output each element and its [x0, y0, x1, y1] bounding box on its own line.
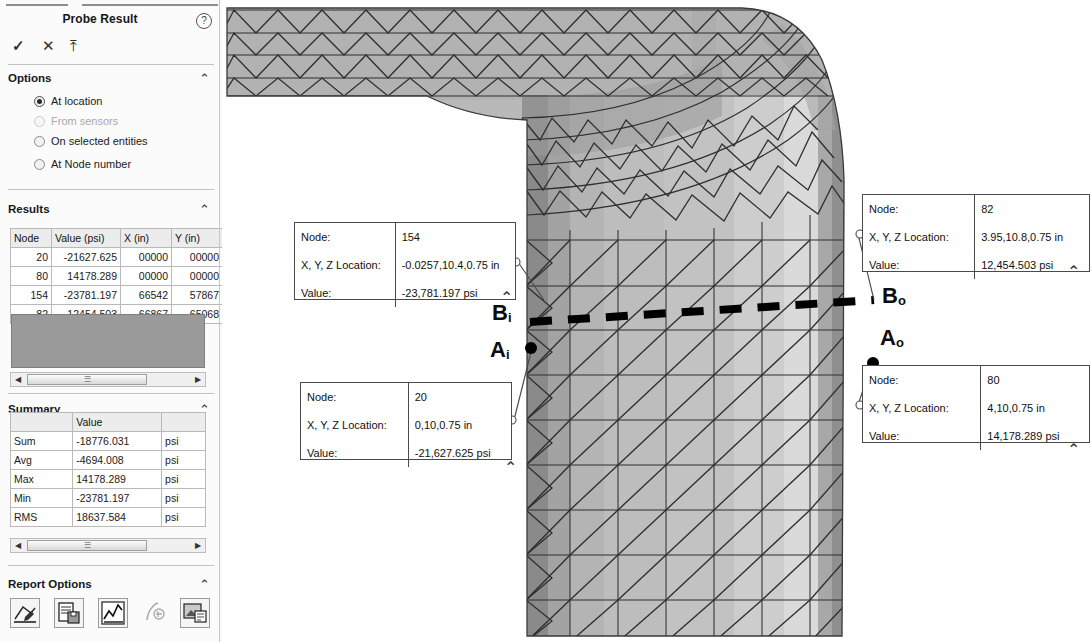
table-row[interactable]: 80 14178.289 00000 00000 — [11, 267, 223, 286]
report-image-icon[interactable] — [180, 598, 210, 628]
point-label-sub: i — [508, 310, 512, 325]
column-header-value[interactable]: Value (psi) — [52, 229, 121, 248]
results-table[interactable]: Node Value (psi) X (in) Y (in) 20 -21627… — [10, 228, 223, 324]
callout-label-value: Value: — [863, 422, 981, 450]
callout-row-location: X, Y, Z Location: 0,10,0.75 in — [301, 411, 511, 439]
column-header-value: Value — [73, 413, 162, 432]
scrollbar-thumb[interactable]: ☰ — [27, 374, 147, 385]
cell-node: 20 — [11, 248, 52, 267]
table-row[interactable]: 154 -23781.197 66542 57867 — [11, 286, 223, 305]
callout-label-location: X, Y, Z Location: — [301, 411, 408, 439]
callout-row-location: X, Y, Z Location: 3.95,10.8,0.75 in — [863, 223, 1089, 251]
callout-collapse-caret-20[interactable]: ⌃ — [504, 458, 517, 477]
radio-label: On selected entities — [51, 135, 148, 147]
cell-x: 00000 — [121, 267, 172, 286]
cancel-button[interactable]: ✕ — [42, 37, 55, 55]
table-header-row: Node Value (psi) X (in) Y (in) — [11, 229, 223, 248]
callout-label-node: Node: — [295, 223, 395, 251]
point-label-ao: Ao — [880, 325, 904, 351]
radio-at-location[interactable]: At location — [34, 92, 102, 110]
report-options-toolbar — [10, 598, 216, 632]
callout-row-node: Node: 80 — [863, 366, 1089, 394]
callout-collapse-caret-80[interactable]: ⌃ — [1067, 440, 1080, 459]
point-label-bo: Bo — [882, 283, 906, 309]
callout-label-location: X, Y, Z Location: — [295, 251, 395, 279]
table-row[interactable]: 20 -21627.625 00000 00000 — [11, 248, 223, 267]
column-header-node[interactable]: Node — [11, 229, 52, 248]
cell-node: 80 — [11, 267, 52, 286]
column-header-units — [162, 413, 206, 432]
scrollbar-thumb[interactable]: ☰ — [27, 540, 147, 551]
save-to-file-icon[interactable] — [54, 598, 84, 628]
panel-action-bar: ✓ ✕ ⤒ — [10, 37, 210, 57]
cell-value: 18637.584 — [73, 508, 162, 527]
point-label-base: B — [882, 283, 898, 308]
column-header-y[interactable]: Y (in) — [172, 229, 223, 248]
scroll-left-icon[interactable]: ◀ — [11, 373, 25, 386]
point-label-base: A — [490, 337, 506, 362]
scroll-left-icon[interactable]: ◀ — [11, 539, 25, 552]
panel-border — [219, 0, 220, 642]
radio-bullet-icon — [34, 159, 45, 170]
point-label-base: A — [880, 325, 896, 350]
callout-value-node: 154 — [395, 223, 515, 251]
summary-table[interactable]: Value Sum -18776.031 psi Avg -4694.008 p… — [10, 412, 206, 527]
cell-node: 154 — [11, 286, 52, 305]
update-icon[interactable] — [142, 598, 172, 628]
radio-at-node-number[interactable]: At Node number — [34, 155, 131, 173]
callout-value-node: 20 — [408, 383, 511, 411]
scroll-right-icon[interactable]: ▶ — [191, 539, 205, 552]
summary-horizontal-scrollbar[interactable]: ◀ ☰ ▶ — [10, 538, 206, 553]
chevron-up-icon-options[interactable]: ⌃ — [199, 71, 210, 86]
cell-metric: Min — [11, 489, 73, 508]
cell-value: -4694.008 — [73, 451, 162, 470]
plot-graph-icon[interactable] — [98, 598, 128, 628]
callout-label-value: Value: — [301, 439, 408, 467]
callout-node-80[interactable]: Node: 80 X, Y, Z Location: 4,10,0.75 in … — [862, 365, 1090, 443]
callout-node-20[interactable]: Node: 20 X, Y, Z Location: 0,10,0.75 in … — [300, 382, 512, 460]
cell-value: 14178.289 — [52, 267, 121, 286]
callout-collapse-caret-82[interactable]: ⌃ — [1067, 262, 1080, 281]
callout-collapse-caret-154[interactable]: ⌃ — [500, 288, 513, 307]
chevron-up-icon-results[interactable]: ⌃ — [199, 202, 210, 217]
model-viewport[interactable]: Node: 154 X, Y, Z Location: -0.0257,10.4… — [222, 0, 1092, 642]
callout-row-value: Value: 12,454.503 psi — [863, 251, 1089, 279]
section-header-results: Results ⌃ — [8, 203, 214, 219]
column-header-x[interactable]: X (in) — [121, 229, 172, 248]
table-row: RMS 18637.584 psi — [11, 508, 206, 527]
callout-label-node: Node: — [863, 366, 981, 394]
callout-row-value: Value: -23,781.197 psi — [295, 279, 515, 307]
cell-units: psi — [162, 508, 206, 527]
radio-bullet-icon — [34, 136, 45, 147]
callout-node-154[interactable]: Node: 154 X, Y, Z Location: -0.0257,10.4… — [294, 222, 516, 300]
save-as-sensor-icon[interactable] — [10, 598, 40, 628]
divider — [8, 565, 214, 566]
radio-on-selected-entities[interactable]: On selected entities — [34, 132, 148, 150]
pin-button[interactable]: ⤒ — [70, 37, 77, 55]
callout-row-value: Value: 14,178.289 psi — [863, 422, 1089, 450]
results-horizontal-scrollbar[interactable]: ◀ ☰ ▶ — [10, 372, 206, 387]
callout-node-82[interactable]: Node: 82 X, Y, Z Location: 3.95,10.8,0.7… — [862, 194, 1090, 272]
callout-row-node: Node: 154 — [295, 223, 515, 251]
divider — [8, 189, 214, 190]
cell-value: 14178.289 — [73, 470, 162, 489]
probe-result-panel: Probe Result ? ✓ ✕ ⤒ Options ⌃ At locati… — [0, 0, 222, 642]
accept-button[interactable]: ✓ — [12, 37, 25, 55]
section-title-report-options: Report Options — [8, 578, 92, 590]
cell-value: -23781.197 — [73, 489, 162, 508]
chevron-up-icon-report-options[interactable]: ⌃ — [199, 577, 210, 592]
scroll-right-icon[interactable]: ▶ — [191, 373, 205, 386]
table-header-row: Value — [11, 413, 206, 432]
cell-value: -18776.031 — [73, 432, 162, 451]
callout-label-value: Value: — [295, 279, 395, 307]
radio-from-sensors[interactable]: From sensors — [34, 112, 118, 130]
cell-metric: RMS — [11, 508, 73, 527]
callout-label-node: Node: — [301, 383, 408, 411]
column-header-metric — [11, 413, 73, 432]
help-icon[interactable]: ? — [196, 13, 212, 29]
node-marker-ai[interactable] — [525, 342, 537, 354]
point-label-sub: o — [896, 335, 904, 350]
callout-value-node: 82 — [975, 195, 1089, 223]
section-title-options: Options — [8, 72, 51, 84]
page-title: Probe Result — [0, 12, 200, 26]
